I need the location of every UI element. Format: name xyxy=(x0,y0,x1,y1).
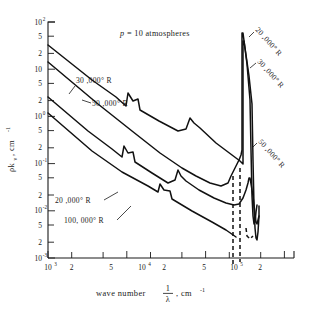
y-tick-label: 2 xyxy=(38,49,42,58)
y-tick-sup: -3 xyxy=(43,252,48,258)
y-tick-label: 10 xyxy=(35,65,43,74)
y-tick-label: 10 xyxy=(35,112,43,121)
y-tick-label: 10 xyxy=(35,18,43,27)
figure-chart-absorption-coefficient: 10 2 5 2 10 5 2 10 0 5 2 10 -1 5 2 10 -2… xyxy=(0,0,315,313)
y-axis-title-main: ρk xyxy=(7,162,16,172)
x-tick-label: 5 xyxy=(109,263,113,272)
y-tick-sup: 0 xyxy=(43,110,46,116)
curve-label-100000R-left: 100, 000° R xyxy=(64,216,105,225)
y-tick-label: 2 xyxy=(38,143,42,152)
x-tick-sup: 3 xyxy=(54,261,57,267)
y-axis-title-units-sup: -1 xyxy=(5,127,11,132)
curve-label-50000R-left: 50 ,000° R xyxy=(92,99,128,108)
chart-svg: 10 2 5 2 10 5 2 10 0 5 2 10 -1 5 2 10 -2… xyxy=(0,0,315,313)
curve-label-30000R-right: 30 ,000° R xyxy=(256,57,287,90)
y-axis-title-sub: ν xyxy=(12,158,18,161)
curve-dashed-bottom-hook xyxy=(246,228,253,239)
pressure-symbol: p xyxy=(119,29,124,38)
y-tick-label: 5 xyxy=(38,221,42,230)
y-tick-sup: -1 xyxy=(43,157,48,163)
y-tick-label: 5 xyxy=(38,79,42,88)
y-tick-label: 5 xyxy=(38,32,42,41)
y-tick-sup: -2 xyxy=(43,204,48,210)
y-tick-label: 5 xyxy=(38,126,42,135)
data-curves xyxy=(48,33,259,266)
x-tick-label: 5 xyxy=(202,263,206,272)
pressure-value-text: = 10 atmospheres xyxy=(127,29,190,38)
curve-label-20000R-left: 20 ,000° R xyxy=(55,196,91,205)
x-tick-sup: 5 xyxy=(240,261,243,267)
x-axis-title: wave number 1 λ , cm -1 xyxy=(96,284,205,304)
pressure-annotation: p = 10 atmospheres xyxy=(119,29,190,38)
curve-label-50000R-right: 50 ,000° R xyxy=(257,137,288,170)
x-axis-ticks xyxy=(48,251,284,258)
y-axis-title-units: , cm xyxy=(7,140,16,156)
y-axis-ticks xyxy=(48,22,55,258)
y-tick-label: 5 xyxy=(38,173,42,182)
curve-label-20000R-right: 20 ,000° R xyxy=(254,25,285,58)
y-tick-sup: 2 xyxy=(43,16,46,22)
y-tick-label: 10 xyxy=(35,254,43,263)
x-axis-title-words: wave number xyxy=(96,289,146,298)
x-tick-label: 2 xyxy=(162,263,166,272)
svg-text:ρk: ρk xyxy=(7,162,16,172)
x-tick-label: 2 xyxy=(258,263,262,272)
x-axis-title-frac-denominator: λ xyxy=(166,295,171,304)
y-axis-title: ρk ν , cm -1 xyxy=(5,127,18,172)
x-tick-label: 10 xyxy=(44,263,52,272)
y-tick-label: 2 xyxy=(38,191,42,200)
x-tick-label: 10 xyxy=(230,263,238,272)
y-tick-label: 10 xyxy=(35,206,43,215)
x-axis-tick-labels: 10 3 2 5 10 4 2 5 10 5 2 xyxy=(44,261,262,272)
x-tick-label: 10 xyxy=(138,263,146,272)
x-axis-title-units: , cm xyxy=(176,289,192,298)
x-axis-title-frac-numerator: 1 xyxy=(166,284,171,293)
y-tick-label: 2 xyxy=(38,238,42,247)
y-tick-label: 10 xyxy=(35,159,43,168)
curve-label-30000R-left: 30 ,000° R xyxy=(76,76,112,85)
x-tick-label: 2 xyxy=(70,263,74,272)
x-axis-title-units-sup: -1 xyxy=(200,287,205,293)
y-axis-tick-labels: 10 2 5 2 10 5 2 10 0 5 2 10 -1 5 2 10 -2… xyxy=(35,16,48,263)
y-tick-label: 2 xyxy=(38,96,42,105)
x-tick-sup: 4 xyxy=(148,261,151,267)
